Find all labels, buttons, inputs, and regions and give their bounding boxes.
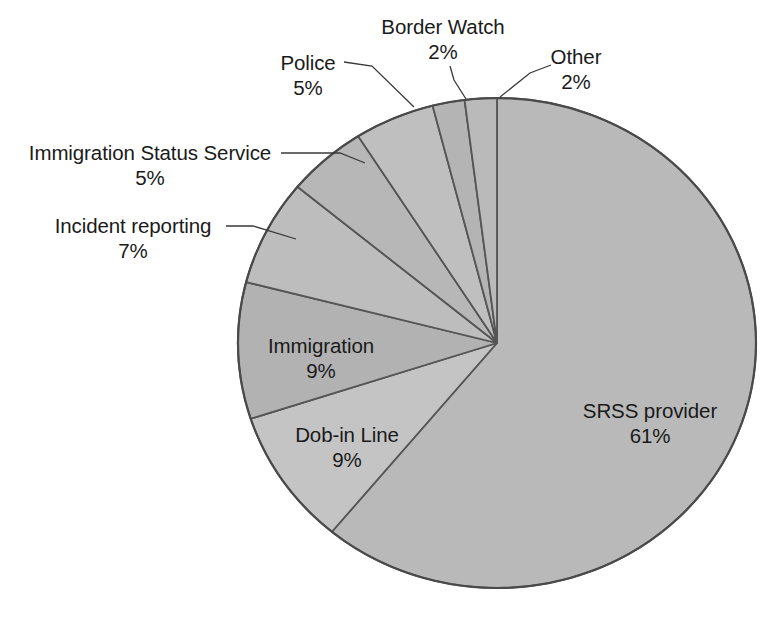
slice-label-name: Immigration (231, 333, 411, 358)
slice-label-percent: 7% (43, 238, 223, 263)
slice-label-name: SRSS provider (537, 398, 763, 423)
pie-chart-figure: SRSS provider 61% Dob-in Line 9% Immigra… (0, 0, 779, 619)
slice-label-percent: 5% (248, 75, 368, 100)
leader-line (450, 66, 466, 99)
slice-label-percent: 5% (20, 165, 280, 190)
slice-label-other: Other 2% (516, 44, 636, 94)
slice-label-police: Police 5% (248, 50, 368, 100)
slice-label-percent: 61% (537, 423, 763, 448)
slice-label-border-watch: Border Watch 2% (353, 14, 533, 64)
slice-label-name: Border Watch (353, 14, 533, 39)
slice-label-immigration: Immigration 9% (231, 333, 411, 383)
slice-label-percent: 9% (231, 358, 411, 383)
slice-label-percent: 2% (353, 39, 533, 64)
slice-label-name: Dob-in Line (257, 422, 437, 447)
slice-label-name: Other (516, 44, 636, 69)
slice-label-immigration-status-service: Immigration Status Service 5% (20, 140, 280, 190)
slice-label-incident-reporting: Incident reporting 7% (43, 213, 223, 263)
pie-chart-canvas (0, 0, 779, 619)
slice-label-srss-provider: SRSS provider 61% (537, 398, 763, 448)
slice-label-dob-in-line: Dob-in Line 9% (257, 422, 437, 472)
slice-label-name: Police (248, 50, 368, 75)
slice-label-name: Incident reporting (43, 213, 223, 238)
slice-label-percent: 9% (257, 447, 437, 472)
slice-label-name: Immigration Status Service (20, 140, 280, 165)
slice-label-percent: 2% (516, 69, 636, 94)
